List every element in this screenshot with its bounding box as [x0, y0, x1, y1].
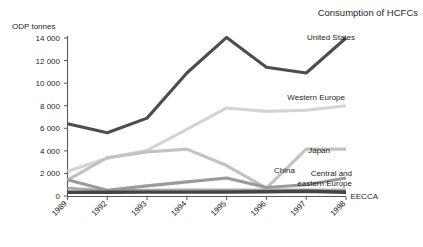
series-line-eecca: [68, 191, 347, 192]
series-label-eecca: EECCA: [350, 192, 378, 201]
x-tick-label: 1994: [169, 199, 188, 218]
chart-title: Consumption of HCFCs: [318, 7, 419, 18]
series-label-group: United StatesWestern EuropeJapanChinaCen…: [274, 33, 379, 201]
series-line-western-europe: [68, 106, 347, 171]
hcfc-consumption-line-chart: Consumption of HCFCs ODP tonnes 02 0004 …: [0, 0, 423, 247]
x-axis-tick-group: 19891992199319941995199619971998: [50, 197, 348, 218]
series-label-western-europe: Western Europe: [287, 93, 345, 102]
series-label-united-states: United States: [307, 33, 355, 42]
series-line-group: [68, 37, 347, 192]
x-tick-label: 1996: [249, 199, 268, 218]
y-tick-label: 6 000: [40, 124, 61, 133]
y-tick-label: 10 000: [36, 79, 61, 88]
y-axis-title: ODP tonnes: [12, 22, 55, 31]
y-tick-label: 0: [56, 192, 61, 201]
series-label-japan: Japan: [308, 146, 330, 155]
y-axis-tick-group: 02 0004 0006 0008 00010 00012 00014 000: [36, 34, 68, 201]
y-tick-label: 4 000: [40, 147, 61, 156]
y-tick-label: 2 000: [40, 169, 61, 178]
x-tick-label: 1998: [328, 199, 347, 218]
series-label-central-and-eastern-europe: Central andeastern Europe: [297, 169, 352, 188]
y-tick-label: 8 000: [40, 102, 61, 111]
y-tick-label: 14 000: [36, 34, 61, 43]
x-tick-label: 1997: [289, 199, 308, 218]
x-tick-label: 1989: [50, 199, 69, 218]
x-tick-label: 1993: [130, 199, 149, 218]
y-tick-label: 12 000: [36, 57, 61, 66]
x-tick-label: 1992: [90, 199, 109, 218]
series-label-china: China: [274, 166, 295, 175]
x-tick-label: 1995: [209, 199, 228, 218]
chart-container: Consumption of HCFCs ODP tonnes 02 0004 …: [0, 0, 423, 247]
